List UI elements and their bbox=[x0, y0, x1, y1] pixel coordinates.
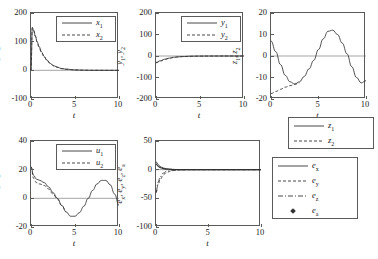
panel-5-legend-entry-ey: ey bbox=[273, 173, 357, 188]
figure-multi-panel: -10001002000510tx1, x2x1x2-200-100010020… bbox=[0, 0, 378, 259]
panel-5-plot-area bbox=[156, 141, 261, 227]
panel-5-series-ez bbox=[156, 170, 261, 193]
panel-5-ytick-mark bbox=[156, 169, 159, 170]
panel-5-ytick-mark bbox=[156, 141, 159, 142]
panel-5-series-ex bbox=[156, 162, 261, 170]
panel-5-yaxis-label: ex, ey, ez, ea bbox=[114, 149, 126, 219]
panel-5-axes bbox=[155, 140, 260, 226]
legend-label: ez bbox=[312, 190, 318, 202]
panel-5-legend-entry-ex: ex bbox=[273, 158, 357, 173]
diamond-marker-icon bbox=[290, 208, 296, 214]
panel-5-series-ea bbox=[156, 164, 261, 170]
legend-label: ex bbox=[312, 160, 319, 172]
panel-5-xtick-label: 0 bbox=[143, 228, 167, 237]
panel-5-ytick-mark bbox=[156, 198, 159, 199]
panel-5-xtick-label: 10 bbox=[248, 228, 272, 237]
legend-label: ey bbox=[312, 175, 319, 187]
legend-line-sample bbox=[278, 178, 308, 184]
panel-5-series-ey bbox=[156, 170, 261, 193]
panel-5-legend: exeyezea bbox=[272, 157, 358, 219]
legend-line-sample bbox=[278, 163, 308, 169]
legend-label: ea bbox=[312, 205, 318, 217]
panel-5-legend-entry-ea: ea bbox=[273, 203, 357, 218]
panel-5: -100-500500510tex, ey, ez, eaexeyezea bbox=[0, 0, 378, 259]
panel-5-xtick-label: 5 bbox=[196, 228, 220, 237]
legend-line-sample bbox=[278, 193, 308, 199]
panel-5-ytick-label: 50 bbox=[121, 136, 152, 145]
panel-5-xaxis-label: t bbox=[193, 238, 223, 248]
panel-5-legend-entry-ez: ez bbox=[273, 188, 357, 203]
